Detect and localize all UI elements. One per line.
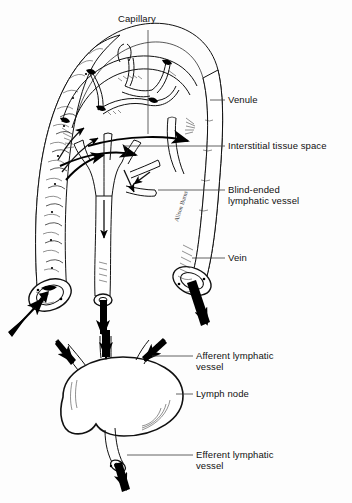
venule-vein: [168, 70, 222, 301]
label-efferent-lymphatic-vessel: Efferent lymphatic vessel: [196, 449, 274, 471]
label-afferent-lymphatic-vessel: Afferent lymphatic vessel: [196, 350, 274, 372]
interstitial-space: [58, 128, 188, 180]
lymphatic-diagram: Alison Burns: [0, 0, 352, 503]
label-blind-ended-lymphatic-vessel: Blind-ended lymphatic vessel: [228, 184, 299, 206]
label-lymph-node: Lymph node: [196, 388, 249, 399]
label-capillary: Capillary: [118, 13, 156, 24]
label-interstitial-tissue-space: Interstitial tissue space: [228, 140, 327, 151]
lymphatic-capillaries: [74, 133, 160, 306]
lymph-node: [60, 336, 183, 474]
label-vein: Vein: [228, 252, 247, 263]
artist-signature: Alison Burns: [173, 190, 189, 223]
label-venule: Venule: [228, 94, 258, 105]
diagram-artwork: Alison Burns: [0, 0, 352, 503]
arrow-interstitial-2: [60, 153, 136, 166]
